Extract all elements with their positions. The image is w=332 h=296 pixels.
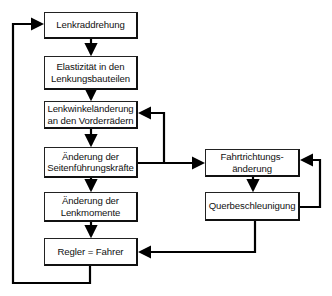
box-lenkraddrehung: Lenkraddrehung: [44, 12, 138, 39]
box-regler-fahrer: Regler = Fahrer: [44, 238, 138, 266]
box-label-line1: Lenkwinkeländerung: [47, 103, 133, 115]
box-label: Querbeschleunigung: [209, 200, 296, 212]
box-label-line1: Fahrtrichtungs-: [220, 151, 283, 163]
box-elastizitaet: Elastizität in den Lenkungsbauteilen: [44, 56, 138, 90]
box-lenkmomente: Änderung der Lenkmomente: [44, 192, 138, 222]
box-lenkwinkelaenderung: Lenkwinkeländerung an den Vorderrädern: [44, 101, 138, 129]
box-label-line1: Änderung der: [62, 195, 119, 207]
box-label-line2: Seitenführungskräfte: [47, 162, 134, 174]
box-label-line2: Lenkungsbauteilen: [51, 73, 130, 85]
box-label: Lenkraddrehung: [56, 19, 124, 31]
box-querbeschleunigung: Querbeschleunigung: [205, 192, 300, 221]
box-label-line2: änderung: [232, 163, 272, 175]
box-label: Regler = Fahrer: [58, 246, 124, 258]
box-label-line1: Änderung der: [62, 151, 119, 163]
box-seitenfuehrungskraefte: Änderung der Seitenführungskräfte: [44, 147, 138, 178]
box-label-line2: Lenkmomente: [61, 207, 121, 219]
box-label-line2: an den Vorderrädern: [47, 115, 133, 127]
box-fahrtrichtungsaenderung: Fahrtrichtungs- änderung: [205, 149, 300, 177]
box-label-line1: Elastizität in den: [56, 61, 124, 73]
